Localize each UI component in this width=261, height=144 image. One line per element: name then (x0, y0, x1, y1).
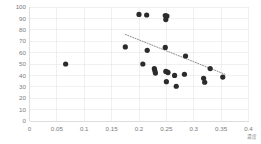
data-point (164, 79, 169, 84)
y-tick-label: 90 (19, 15, 26, 22)
data-point (140, 61, 145, 66)
plot-svg: 0102030405060708090100 00.050.10.150.20.… (0, 0, 261, 144)
y-tick-label: 70 (19, 37, 26, 44)
data-point (165, 70, 170, 75)
x-axis-title: 濃度 (247, 133, 257, 140)
y-tick-label: 80 (19, 26, 26, 33)
y-tick-label: 50 (19, 60, 26, 67)
scatter-chart: 0102030405060708090100 00.050.10.150.20.… (0, 0, 261, 144)
data-point (153, 71, 158, 76)
x-tick-label: 0.3 (189, 125, 198, 132)
y-tick-label: 20 (19, 94, 26, 101)
x-tick-label: 0.15 (106, 125, 119, 132)
y-tick-labels: 0102030405060708090100 (16, 3, 27, 124)
x-tick-label: 0.1 (80, 125, 89, 132)
data-point (136, 12, 141, 17)
data-point (144, 12, 149, 17)
data-points (63, 12, 225, 89)
data-point (123, 44, 128, 49)
y-tick-label: 10 (19, 106, 26, 113)
y-tick-label: 0 (23, 117, 27, 124)
data-point (63, 61, 68, 66)
data-point (220, 75, 225, 80)
y-tick-label: 100 (16, 3, 27, 10)
x-tick-label: 0.2 (135, 125, 144, 132)
x-tick-label: 0.35 (215, 125, 228, 132)
data-point (208, 66, 213, 71)
y-tick-label: 60 (19, 49, 26, 56)
data-point (145, 48, 150, 53)
data-point (163, 45, 168, 50)
x-tick-label: 0.05 (51, 125, 64, 132)
y-tick-label: 30 (19, 83, 26, 90)
data-point (174, 84, 179, 89)
data-point (183, 53, 188, 58)
data-point (172, 73, 177, 78)
data-point (182, 72, 187, 77)
x-tick-labels: 00.050.10.150.20.250.30.350.4 (28, 125, 254, 132)
data-point (202, 80, 207, 85)
x-tick-label: 0.4 (244, 125, 253, 132)
y-tick-label: 40 (19, 72, 26, 79)
data-point (164, 14, 169, 19)
x-tick-label: 0.25 (160, 125, 173, 132)
x-tick-label: 0 (28, 125, 32, 132)
